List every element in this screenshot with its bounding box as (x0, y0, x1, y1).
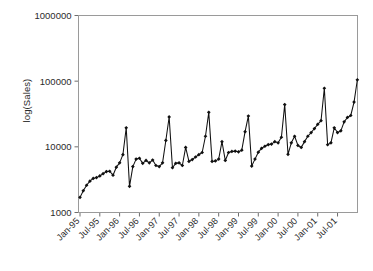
data-point-marker (243, 130, 247, 134)
data-point-marker (124, 126, 128, 130)
y-axis-label: log(Sales) (21, 41, 32, 161)
data-point-marker (207, 111, 211, 115)
data-point-marker (247, 114, 251, 118)
data-point-marker (352, 100, 356, 104)
chart-container: log(Sales) 1000100001000001000000 Jan-95… (0, 0, 373, 271)
data-point-marker (240, 148, 244, 152)
x-axis-label-group: Jan-95Jul-95Jan-96Jul-96Jan-97Jul-97Jan-… (54, 216, 338, 243)
y-axis-tick-label: 100000 (40, 76, 72, 87)
y-axis-tick-label: 10000 (45, 141, 71, 152)
data-point-marker (128, 185, 132, 189)
data-point-marker (210, 160, 214, 164)
data-point-marker (250, 164, 254, 168)
data-point-marker (322, 86, 326, 90)
x-axis-tick-label: Jul-01 (314, 216, 339, 241)
data-point-marker (184, 146, 188, 150)
data-point-marker (286, 152, 290, 156)
line-chart-svg: 1000100001000001000000 Jan-95Jul-95Jan-9… (0, 0, 373, 271)
data-point-marker (227, 151, 231, 155)
plot-area-frame (79, 16, 358, 213)
data-point-marker (223, 159, 227, 163)
data-point-marker (355, 78, 359, 82)
data-point-marker (95, 176, 99, 180)
y-axis-tick-label: 1000000 (35, 10, 72, 21)
data-point-marker (289, 141, 293, 145)
y-axis-tick-label: 1000 (50, 207, 71, 218)
x-axis-tick-group (80, 213, 338, 217)
data-point-marker (233, 149, 237, 153)
sales-series-line (80, 80, 357, 198)
y-axis-tick-group: 1000100001000001000000 (35, 10, 79, 218)
data-point-marker (266, 143, 270, 147)
data-point-marker (253, 157, 257, 161)
data-point-marker (204, 134, 208, 138)
sales-series-markers (78, 78, 359, 199)
data-point-marker (134, 157, 138, 161)
data-point-marker (121, 153, 125, 157)
data-point-marker (167, 115, 171, 119)
x-axis-tick-label: Jan-95 (54, 216, 81, 243)
data-point-marker (339, 129, 343, 133)
data-point-marker (293, 134, 297, 138)
data-point-marker (164, 139, 168, 143)
data-point-marker (283, 103, 287, 107)
data-point-marker (131, 165, 135, 169)
data-point-marker (230, 150, 234, 154)
data-point-marker (220, 140, 224, 144)
data-point-marker (237, 150, 241, 154)
